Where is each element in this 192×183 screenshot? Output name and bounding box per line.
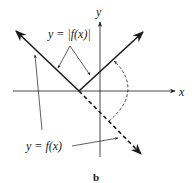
y-axis-label: y [95, 5, 102, 19]
abs-pointer-left [58, 46, 70, 68]
function-pointer-up [35, 55, 42, 130]
figure-caption: b [93, 171, 99, 183]
abs-pointer-right [70, 46, 90, 75]
function-label: y = f(x) [25, 139, 62, 153]
f-graph-dashed-ray [79, 91, 141, 154]
diagram-canvas: x y y = |f(x)| y = f(x) b [0, 0, 192, 183]
x-axis-label: x [178, 85, 185, 99]
abs-function-label: y = |f(x)| [47, 27, 91, 41]
function-pointer-right [72, 138, 118, 146]
